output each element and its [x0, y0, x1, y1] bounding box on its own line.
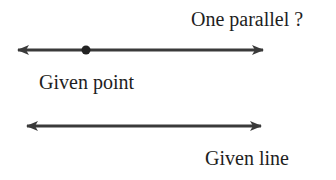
given-point-label: Given point: [39, 72, 134, 92]
given-line-label: Given line: [205, 148, 289, 168]
parallel-question-label: One parallel ?: [191, 9, 303, 29]
given-point-dot: [82, 46, 91, 55]
